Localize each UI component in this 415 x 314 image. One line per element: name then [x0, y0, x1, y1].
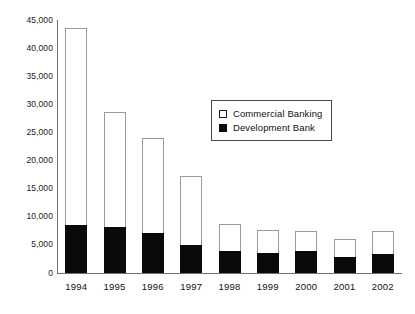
bar-stack	[257, 230, 279, 273]
y-tick-label: 15,000	[5, 184, 53, 193]
filled-square-icon	[219, 124, 227, 132]
bar-segment-commercial-banking	[104, 112, 126, 227]
bar-group	[180, 176, 202, 273]
bar-stack	[104, 112, 126, 273]
bar-group	[372, 231, 394, 273]
bar-group	[295, 231, 317, 273]
bar-segment-development-bank	[334, 257, 356, 273]
y-tick-label: 45,000	[5, 16, 53, 25]
bar-segment-development-bank	[372, 254, 394, 273]
bar-segment-development-bank	[65, 225, 87, 273]
y-tick-label: 10,000	[5, 212, 53, 221]
bar-group	[334, 239, 356, 273]
bar-stack	[372, 231, 394, 273]
y-tick-label: 0	[5, 269, 53, 278]
bar-chart: 05,00010,00015,00020,00025,00030,00035,0…	[0, 0, 415, 314]
x-tick-label: 2002	[360, 281, 406, 292]
bar-segment-development-bank	[219, 251, 241, 273]
y-tick: 10,000	[0, 212, 53, 221]
y-tick: 20,000	[0, 156, 53, 165]
legend-item-label: Commercial Banking	[233, 108, 322, 119]
bar-segment-development-bank	[142, 233, 164, 273]
y-tick-label: 30,000	[5, 100, 53, 109]
bar-segment-commercial-banking	[142, 138, 164, 232]
bar-segment-commercial-banking	[372, 231, 394, 253]
bar-group	[142, 138, 164, 273]
bar-segment-commercial-banking	[219, 224, 241, 251]
y-tick-label: 35,000	[5, 72, 53, 81]
y-tick: 5,000	[0, 240, 53, 249]
bar-segment-development-bank	[180, 245, 202, 273]
bar-segment-development-bank	[257, 253, 279, 273]
y-tick: 0	[0, 269, 53, 278]
bar-stack	[219, 224, 241, 273]
y-tick: 40,000	[0, 44, 53, 53]
bar-segment-development-bank	[295, 251, 317, 273]
y-tick: 15,000	[0, 184, 53, 193]
y-tick-label: 5,000	[5, 240, 53, 249]
bar-stack	[180, 176, 202, 273]
bar-segment-development-bank	[104, 227, 126, 273]
y-tick: 30,000	[0, 100, 53, 109]
bar-stack	[334, 239, 356, 273]
bar-segment-commercial-banking	[65, 28, 87, 224]
chart-legend: Commercial BankingDevelopment Bank	[211, 100, 332, 141]
legend-item: Commercial Banking	[219, 107, 322, 120]
bar-segment-commercial-banking	[180, 176, 202, 245]
bar-segment-commercial-banking	[257, 230, 279, 254]
y-tick-label: 40,000	[5, 44, 53, 53]
hollow-square-icon	[219, 110, 227, 118]
bar-stack	[295, 231, 317, 273]
bars-layer	[57, 20, 402, 274]
legend-item: Development Bank	[219, 121, 322, 134]
bar-segment-commercial-banking	[334, 239, 356, 257]
bar-group	[104, 112, 126, 273]
y-tick: 35,000	[0, 72, 53, 81]
bar-group	[65, 28, 87, 273]
bar-stack	[65, 28, 87, 273]
y-tick-label: 20,000	[5, 156, 53, 165]
bar-group	[219, 224, 241, 273]
bar-stack	[142, 138, 164, 273]
y-tick: 25,000	[0, 128, 53, 137]
y-tick: 45,000	[0, 16, 53, 25]
bar-segment-commercial-banking	[295, 231, 317, 251]
bar-group	[257, 230, 279, 273]
y-tick-label: 25,000	[5, 128, 53, 137]
legend-item-label: Development Bank	[233, 122, 315, 133]
